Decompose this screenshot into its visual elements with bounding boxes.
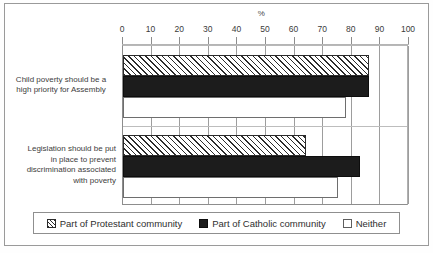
x-tick-label: 60 (289, 24, 298, 34)
x-tick-mark (322, 37, 323, 44)
x-tick-label: 80 (346, 24, 355, 34)
filled-swatch-icon (199, 219, 208, 228)
bar-protestant-group-1 (123, 135, 306, 156)
x-tick-label: 20 (174, 24, 183, 34)
x-tick-mark (265, 37, 266, 44)
x-tick-label: 100 (401, 24, 415, 34)
x-tick-mark (122, 37, 123, 44)
legend-label: Part of Catholic community (212, 218, 326, 229)
x-axis-tick-labels: 0102030405060708090100 (0, 24, 433, 36)
category-label-line: with poverty (6, 176, 116, 187)
empty-swatch-icon (343, 219, 352, 228)
x-axis-title-text: % (258, 9, 265, 18)
legend-item-neither[interactable]: Neither (343, 218, 387, 229)
category-label-line: Legislation should be put (6, 144, 116, 155)
x-tick-label: 0 (120, 24, 125, 34)
x-tick-label: 30 (203, 24, 212, 34)
gridline (408, 46, 409, 204)
category-label-1: Legislation should be putin place to pre… (6, 144, 116, 186)
legend-item-catholic[interactable]: Part of Catholic community (199, 218, 326, 229)
hatch-swatch-icon (47, 219, 56, 228)
x-tick-mark (408, 37, 409, 44)
category-label-line: in place to prevent (6, 155, 116, 166)
bar-neither-group-0 (123, 97, 346, 118)
bar-catholic-group-0 (123, 76, 369, 97)
x-tick-mark (151, 37, 152, 44)
x-tick-mark (294, 37, 295, 44)
x-tick-label: 10 (146, 24, 155, 34)
legend-item-protestant[interactable]: Part of Protestant community (47, 218, 183, 229)
x-tick-mark (379, 37, 380, 44)
plot-area (122, 45, 408, 205)
chart-legend: Part of Protestant communityPart of Cath… (33, 212, 400, 234)
x-tick-mark (236, 37, 237, 44)
x-axis-title: % (0, 9, 433, 18)
x-tick-mark (179, 37, 180, 44)
category-label-line: high priority for Assembly (6, 85, 116, 96)
x-tick-label: 90 (375, 24, 384, 34)
bar-neither-group-1 (123, 177, 338, 198)
chart-figure: % 0102030405060708090100 Child poverty s… (0, 0, 433, 253)
bar-protestant-group-0 (123, 55, 369, 76)
category-label-0: Child poverty should be ahigh priority f… (6, 75, 116, 96)
legend-label: Part of Protestant community (60, 218, 183, 229)
legend-label: Neither (356, 218, 387, 229)
x-tick-mark (208, 37, 209, 44)
x-tick-mark (351, 37, 352, 44)
category-label-line: discrimination associated (6, 165, 116, 176)
group-divider (123, 126, 407, 127)
x-tick-label: 50 (260, 24, 269, 34)
category-label-line: Child poverty should be a (6, 75, 116, 86)
x-tick-label: 70 (317, 24, 326, 34)
gridline (379, 46, 380, 204)
x-tick-label: 40 (232, 24, 241, 34)
bar-catholic-group-1 (123, 156, 360, 177)
